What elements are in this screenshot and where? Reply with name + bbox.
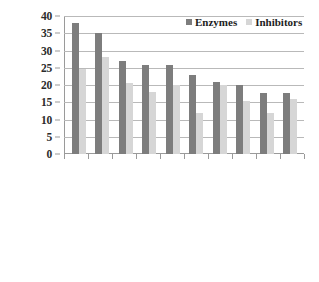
bar-series-container: [64, 16, 304, 154]
y-axis-tick-label: 40: [41, 10, 52, 22]
bar-chart: 4035302520151050 Purine metabolismGlycer…: [0, 0, 319, 282]
bar-inhibitors: [149, 92, 156, 154]
bar-enzymes: [213, 82, 220, 154]
y-axis-tick-mark: [55, 16, 60, 17]
bar-group: [91, 16, 115, 154]
bar-group: [185, 16, 209, 154]
bar-enzymes: [189, 75, 196, 154]
bar-inhibitors: [196, 113, 203, 154]
bar-enzymes: [142, 65, 149, 154]
y-axis-tick-label: 35: [41, 27, 52, 39]
x-axis-labels: Purine metabolismGlycerolipid metabolism…: [0, 156, 319, 282]
bar-group: [161, 16, 185, 154]
bar-inhibitors: [173, 85, 180, 154]
plot-area: [64, 16, 304, 154]
bar-enzymes: [236, 85, 243, 154]
legend-item-inhibitors: Inhibitors: [246, 16, 302, 28]
y-axis-tick-mark: [55, 136, 60, 137]
bar-group: [67, 16, 91, 154]
bar-group: [114, 16, 138, 154]
y-axis-tick-mark: [55, 33, 60, 34]
y-axis-tick-label: 30: [41, 45, 52, 57]
y-axis-tick-mark: [55, 119, 60, 120]
y-axis-tick-label: 5: [46, 131, 52, 143]
y-axis-tick-label: 10: [41, 114, 52, 126]
y-axis-tick-mark: [55, 67, 60, 68]
bar-inhibitors: [126, 83, 133, 154]
legend-item-enzymes: Enzymes: [186, 16, 237, 28]
legend-swatch-icon-inhibitors: [246, 19, 252, 25]
bar-group: [208, 16, 232, 154]
bar-inhibitors: [267, 113, 274, 154]
bar-group: [232, 16, 256, 154]
bar-inhibitors: [220, 85, 227, 154]
legend-swatch-icon-enzymes: [186, 19, 192, 25]
bar-group: [255, 16, 279, 154]
legend-label-enzymes: Enzymes: [195, 16, 237, 28]
y-axis-tick-label: 15: [41, 96, 52, 108]
y-axis-tick-label: 20: [41, 79, 52, 91]
bar-enzymes: [166, 65, 173, 154]
bar-inhibitors: [290, 99, 297, 154]
bar-enzymes: [119, 61, 126, 154]
y-axis-tick-mark: [55, 154, 60, 155]
bar-enzymes: [72, 23, 79, 154]
bar-inhibitors: [79, 69, 86, 154]
bar-group: [279, 16, 303, 154]
legend-label-inhibitors: Inhibitors: [255, 16, 302, 28]
y-axis-tick-mark: [55, 102, 60, 103]
y-axis-tick-mark: [55, 85, 60, 86]
y-axis: 4035302520151050: [0, 16, 60, 154]
bar-enzymes: [260, 93, 267, 154]
bar-inhibitors: [102, 57, 109, 154]
bar-group: [138, 16, 162, 154]
y-axis-tick-label: 25: [41, 62, 52, 74]
chart-legend: Enzymes Inhibitors: [186, 16, 302, 28]
bar-enzymes: [283, 93, 290, 154]
y-axis-tick-mark: [55, 50, 60, 51]
bar-inhibitors: [243, 101, 250, 154]
bar-enzymes: [95, 33, 102, 154]
